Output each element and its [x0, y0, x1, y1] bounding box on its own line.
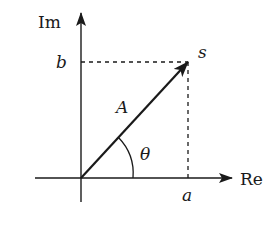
angle-arc [119, 138, 134, 179]
real-component-label: a [182, 185, 192, 205]
imaginary-axis-label: Im [38, 12, 61, 32]
magnitude-label: A [114, 97, 128, 117]
imaginary-component-label: b [56, 52, 67, 72]
angle-label: θ [140, 144, 150, 164]
complex-plane-diagram: Im Re b a s A θ [0, 0, 276, 226]
real-axis-label: Re [240, 169, 263, 189]
endpoint-label: s [198, 42, 207, 62]
phasor-vector-arrow [81, 62, 188, 178]
diagram-canvas: Im Re b a s A θ [0, 0, 276, 226]
